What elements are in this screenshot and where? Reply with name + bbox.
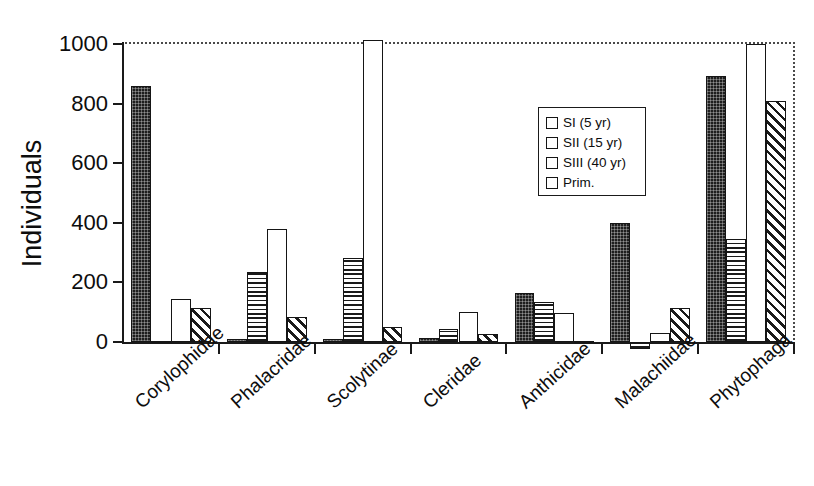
plot-area bbox=[123, 44, 794, 342]
y-tick-label: 200 bbox=[34, 269, 108, 295]
plot-top-border bbox=[122, 42, 795, 44]
x-category-label: Anthicidae bbox=[514, 337, 595, 413]
bar-malachiidae-series-3 bbox=[650, 333, 670, 342]
y-tick-label: 1000 bbox=[34, 31, 108, 57]
legend-label: SII (15 yr) bbox=[563, 136, 622, 150]
bar-scolytinae-series-3 bbox=[363, 40, 383, 342]
x-tick-mark bbox=[410, 343, 412, 354]
bar-cleridae-series-1 bbox=[419, 338, 439, 342]
bar-anthicidae-series-2 bbox=[534, 302, 554, 342]
x-category-label: Cleridae bbox=[419, 349, 486, 413]
bar-phalacridae-series-3 bbox=[267, 229, 287, 342]
bar-phytophaga-series-4 bbox=[766, 101, 786, 342]
bar-cleridae-series-4 bbox=[478, 334, 498, 342]
bar-phytophaga-series-2 bbox=[726, 239, 746, 342]
legend-swatch-icon bbox=[546, 177, 558, 189]
legend-swatch-icon bbox=[546, 157, 558, 169]
x-tick-mark bbox=[601, 343, 603, 354]
bar-anthicidae-series-3 bbox=[554, 313, 574, 342]
bar-malachiidae-series-1 bbox=[610, 223, 630, 342]
y-tick-label: 600 bbox=[34, 150, 108, 176]
legend-entry: SII (15 yr) bbox=[546, 133, 645, 153]
plot-right-border bbox=[793, 42, 795, 344]
legend-entry: Prim. bbox=[546, 173, 645, 193]
y-tick-mark bbox=[113, 162, 123, 164]
y-axis-line bbox=[122, 42, 124, 344]
legend-label: SIII (40 yr) bbox=[563, 156, 626, 170]
y-tick-mark bbox=[113, 103, 123, 105]
x-tick-mark bbox=[505, 343, 507, 354]
legend-entry: SI (5 yr) bbox=[546, 113, 645, 133]
y-tick-label: 800 bbox=[34, 91, 108, 117]
bar-scolytinae-series-2 bbox=[343, 258, 363, 342]
legend-entry: SIII (40 yr) bbox=[546, 153, 645, 173]
bar-chart-figure: Individuals 02004006008001000 Corylophid… bbox=[0, 0, 814, 486]
bar-cleridae-series-3 bbox=[459, 312, 479, 342]
bar-phytophaga-series-3 bbox=[746, 44, 766, 342]
y-tick-label: 0 bbox=[34, 329, 108, 355]
y-tick-mark bbox=[113, 341, 123, 343]
bar-phytophaga-series-1 bbox=[706, 76, 726, 342]
y-tick-mark bbox=[113, 281, 123, 283]
y-axis-tick-labels: 02004006008001000 bbox=[34, 0, 108, 486]
legend-label: SI (5 yr) bbox=[563, 116, 611, 130]
y-tick-label: 400 bbox=[34, 210, 108, 236]
bar-malachiidae-series-2 bbox=[630, 342, 650, 349]
legend-label: Prim. bbox=[563, 176, 595, 190]
bar-phalacridae-series-1 bbox=[227, 339, 247, 342]
bar-corylophidae-series-3 bbox=[171, 299, 191, 342]
legend-swatch-icon bbox=[546, 117, 558, 129]
bar-corylophidae-series-2 bbox=[151, 341, 171, 343]
y-tick-mark bbox=[113, 222, 123, 224]
y-tick-mark bbox=[113, 43, 123, 45]
bar-anthicidae-series-1 bbox=[515, 293, 535, 342]
x-category-label: Scolytinae bbox=[323, 338, 403, 413]
bar-corylophidae-series-1 bbox=[131, 86, 151, 342]
bar-phalacridae-series-2 bbox=[247, 272, 267, 342]
bar-cleridae-series-2 bbox=[439, 329, 459, 342]
chart-legend: SI (5 yr)SII (15 yr)SIII (40 yr)Prim. bbox=[538, 107, 646, 196]
bar-scolytinae-series-1 bbox=[323, 339, 343, 342]
legend-swatch-icon bbox=[546, 137, 558, 149]
